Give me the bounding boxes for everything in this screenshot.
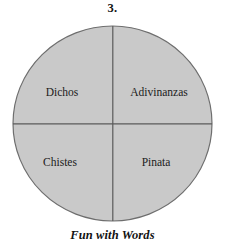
quadrant-label-bottom-left: Chistes xyxy=(20,156,100,169)
figure-caption: Fun with Words xyxy=(0,228,225,243)
figure-container: 3. Dichos Adivinanzas Chistes Pinata Fun… xyxy=(0,0,225,245)
circle-graphic xyxy=(12,25,213,222)
figure-number: 3. xyxy=(0,1,225,15)
quadrant-label-top-left: Dichos xyxy=(22,86,102,99)
quadrant-label-bottom-right: Pinata xyxy=(115,156,197,169)
quadrant-circle-diagram xyxy=(12,25,213,222)
quadrant-label-top-right: Adivinanzas xyxy=(113,86,205,99)
